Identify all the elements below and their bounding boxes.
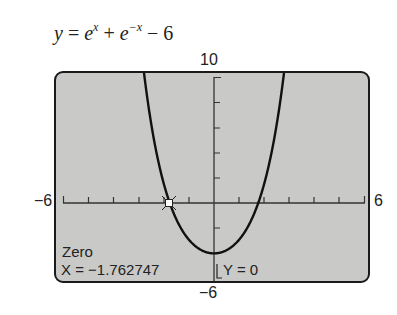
ymax-label: 10 — [200, 52, 218, 68]
readout-y: Y = 0 — [223, 262, 258, 277]
eq-minus: − 6 — [142, 22, 173, 44]
readout-bracket — [217, 264, 222, 278]
xmin-label: −6 — [34, 193, 52, 209]
eq-e1: e — [84, 22, 93, 44]
eq-e2: e — [120, 22, 129, 44]
calculator-screen: Zero X = −1.762747 Y = 0 — [54, 71, 370, 283]
ymin-label: −6 — [199, 285, 217, 301]
function-equation: y = ex + e−x − 6 — [54, 20, 173, 45]
graph-plot — [56, 73, 368, 281]
eq-sup2: −x — [129, 20, 142, 34]
eq-y: y — [54, 22, 63, 44]
xmax-label: 6 — [374, 193, 383, 209]
readout-x: X = −1.762747 — [61, 262, 159, 277]
eq-equals: = — [63, 22, 84, 44]
eq-plus: + — [98, 22, 119, 44]
y-axis-ticks — [214, 78, 221, 254]
readout-mode: Zero — [62, 244, 93, 259]
